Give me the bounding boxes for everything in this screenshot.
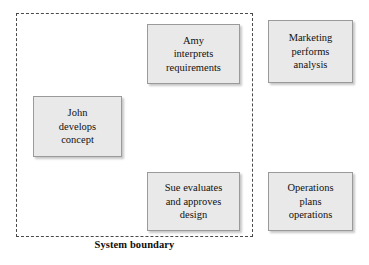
process-box-amy-label: Amy interprets requirements bbox=[151, 34, 236, 75]
process-box-john-label: John develops concept bbox=[37, 106, 118, 147]
system-boundary-label: System boundary bbox=[16, 239, 253, 250]
process-box-marketing-label: Marketing performs analysis bbox=[272, 31, 349, 72]
process-box-sue[interactable]: Sue evaluates and approves design bbox=[147, 172, 240, 231]
diagram-canvas: Amy interprets requirements Marketing pe… bbox=[0, 0, 369, 265]
process-box-operations[interactable]: Operations plans operations bbox=[268, 172, 353, 231]
process-box-sue-label: Sue evaluates and approves design bbox=[151, 181, 236, 222]
process-box-marketing[interactable]: Marketing performs analysis bbox=[268, 20, 353, 83]
process-box-john[interactable]: John develops concept bbox=[33, 96, 122, 157]
process-box-operations-label: Operations plans operations bbox=[272, 181, 349, 222]
process-box-amy[interactable]: Amy interprets requirements bbox=[147, 24, 240, 84]
